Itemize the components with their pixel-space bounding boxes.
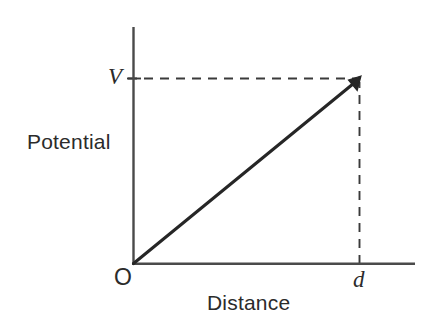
x-axis-label: Distance (207, 292, 290, 313)
graph-canvas (0, 0, 443, 330)
y-axis-label: Potential (27, 131, 111, 152)
data-line-arrowhead (349, 76, 362, 91)
potential-vs-distance-graph: Potential Distance V d O (0, 0, 443, 330)
x-value-marker-label: d (353, 268, 365, 291)
y-value-marker-label: V (108, 65, 122, 88)
origin-label: O (114, 266, 132, 289)
data-line-potential (134, 82, 357, 264)
